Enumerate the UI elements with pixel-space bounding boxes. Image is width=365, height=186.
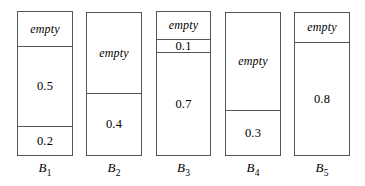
bin-b4: empty0.3 xyxy=(225,12,281,156)
bin-b2-segment-0-4: 0.4 xyxy=(87,93,141,155)
bin-b1-segment-empty: empty xyxy=(18,12,72,46)
item-size-label: 0.1 xyxy=(175,40,191,53)
bin-group-b1: empty0.50.2B1 xyxy=(17,0,73,186)
bin-b4-segment-0-3: 0.3 xyxy=(226,110,280,155)
bin-b5-segment-empty: empty xyxy=(295,13,349,42)
bin-b2: empty0.4 xyxy=(86,12,142,156)
empty-label: empty xyxy=(30,23,60,35)
bin-b4-segment-empty: empty xyxy=(226,13,280,110)
bin-b1-segment-0-5: 0.5 xyxy=(18,46,72,126)
bin-b1: empty0.50.2 xyxy=(17,11,73,156)
item-size-label: 0.8 xyxy=(314,93,330,106)
bin-b5: empty0.8 xyxy=(294,12,350,156)
bin-caption-subscript: 5 xyxy=(323,168,328,178)
empty-label: empty xyxy=(99,47,129,59)
bin-caption-b5: B5 xyxy=(294,161,350,178)
bin-caption-b1: B1 xyxy=(17,161,73,178)
bin-group-b5: empty0.8B5 xyxy=(294,0,350,186)
bin-caption-b3: B3 xyxy=(156,161,211,178)
bin-caption-subscript: 2 xyxy=(115,168,120,178)
bin-b3-segment-empty: empty xyxy=(157,12,210,39)
bin-group-b2: empty0.4B2 xyxy=(86,0,142,186)
bin-b5-segment-0-8: 0.8 xyxy=(295,42,349,155)
empty-label: empty xyxy=(307,21,337,33)
bin-b1-segment-0-2: 0.2 xyxy=(18,126,72,155)
item-size-label: 0.2 xyxy=(37,135,53,148)
bin-b3-segment-0-7: 0.7 xyxy=(157,52,210,155)
bin-b3-segment-0-1: 0.1 xyxy=(157,39,210,53)
bin-caption-b2: B2 xyxy=(86,161,142,178)
bin-packing-figure: empty0.50.2B1empty0.4B2empty0.10.7B3empt… xyxy=(0,0,365,186)
bin-caption-subscript: 3 xyxy=(185,168,190,178)
bin-caption-subscript: 1 xyxy=(46,168,51,178)
item-size-label: 0.4 xyxy=(106,118,122,131)
empty-label: empty xyxy=(169,19,199,31)
bin-caption-letter: B xyxy=(177,160,185,175)
bin-group-b3: empty0.10.7B3 xyxy=(156,0,211,186)
item-size-label: 0.3 xyxy=(245,127,261,140)
item-size-label: 0.7 xyxy=(175,98,191,111)
bin-caption-subscript: 4 xyxy=(254,168,259,178)
bin-b2-segment-empty: empty xyxy=(87,13,141,93)
bin-caption-b4: B4 xyxy=(225,161,281,178)
item-size-label: 0.5 xyxy=(37,80,53,93)
bin-group-b4: empty0.3B4 xyxy=(225,0,281,186)
empty-label: empty xyxy=(238,55,268,67)
bin-b3: empty0.10.7 xyxy=(156,11,211,156)
